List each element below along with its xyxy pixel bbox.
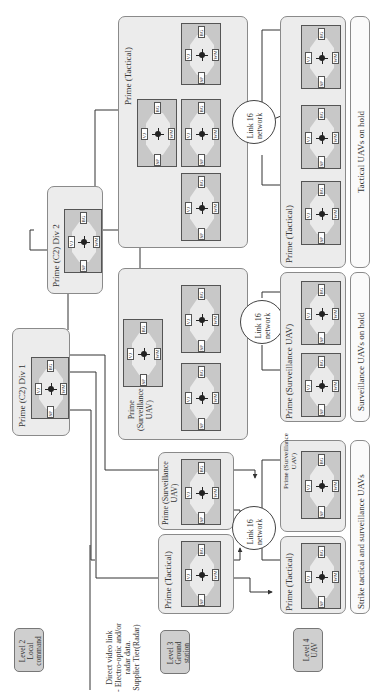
level-3-box: Level 3 Ground station — [160, 630, 190, 674]
link16-network-strike: Link 16network — [232, 506, 276, 550]
level-4-box: Level 4 UAV — [293, 628, 323, 672]
annotation-line-1: Direct video link — [105, 623, 114, 692]
node-hub-icon — [319, 311, 325, 317]
node-hub-icon — [155, 131, 161, 137]
node-hub-icon — [319, 55, 325, 61]
node-hub-icon — [319, 135, 325, 141]
annotation-line-3: radar data. — [123, 623, 132, 692]
hold-strike: Strike tactical and surveillance UAVs — [350, 440, 370, 614]
group-label: Prime (C2) Div 2 — [51, 224, 61, 287]
node: BG VJ WM SP — [64, 209, 102, 273]
node-hub-icon — [48, 386, 54, 392]
group-l3-tactical: Prime (Tactical) BGVJWMSP — [158, 534, 234, 614]
annotation-line-2: - Electro-optic and/or — [114, 623, 123, 692]
node: BG VJ WM SP — [31, 357, 69, 419]
node-hub-icon — [319, 574, 325, 580]
node-hub-icon — [141, 351, 147, 357]
group-l4-surveillance-strike: Prime (Surveillance UAV) BGVJWMSP — [280, 440, 346, 532]
annotation-line-4: Supplier Tier(Radar) — [132, 623, 141, 692]
level-2-line-3: command — [35, 633, 43, 669]
node-hub-icon — [199, 52, 205, 58]
level-2-box: Level 2 Local command — [14, 628, 44, 672]
group-c2-div2: Prime (C2) Div 2 BG VJ WM SP — [47, 186, 103, 294]
level-4-line-2: UAV — [311, 633, 319, 667]
hold-surveillance: Surveillance UAVs on hold — [350, 272, 370, 422]
group-l4-surveillance-hold: Prime (Surveillance UAV) BGVJWMSP BGVJWM… — [280, 272, 346, 422]
link16-network-surveillance: Link 16network — [240, 300, 284, 344]
group-c2-div1: Prime (C2) Div 1 BG VJ WM SP — [12, 328, 70, 436]
node-hub-icon — [81, 239, 87, 245]
node-hub-icon — [199, 395, 205, 401]
group-surveillance-mid: Prime (Surveillance UAV) BGVJWMSP BGVJWM… — [118, 268, 248, 440]
node-hub-icon — [199, 572, 205, 578]
node-hub-icon — [199, 490, 205, 496]
group-label: Prime (Tactical) — [123, 47, 133, 105]
group-label: Prime (C2) Div 1 — [17, 364, 27, 427]
node-sp: SP — [47, 406, 54, 418]
node-vj: VJ — [35, 383, 42, 395]
node-wm: WM — [60, 383, 67, 395]
video-link-annotation: Direct video link - Electro-optic and/or… — [105, 623, 141, 692]
level-3-line-3: station — [183, 635, 191, 671]
node-hub-icon — [199, 131, 205, 137]
node-hub-icon — [199, 317, 205, 323]
node-hub-icon — [319, 383, 325, 389]
group-label: Prime (Surveillance UAV) — [127, 388, 154, 431]
link16-network-tactical: Link 16network — [232, 100, 276, 144]
node-hub-icon — [319, 483, 325, 489]
group-l3-surveillance: Prime (Surveillance UAV) BGVJWMSP — [158, 452, 234, 530]
group-l4-tactical-strike: Prime (Tactical) BGVJWMSP — [280, 536, 346, 614]
group-tactical-top: Prime (Tactical) BGVJWMSP BGVJWMSP BGVJW… — [118, 16, 248, 248]
node-hub-icon — [319, 211, 325, 217]
hold-tactical: Tactical UAVs on hold — [350, 16, 370, 268]
node-hub-icon — [199, 205, 205, 211]
group-l4-tactical-hold: Prime (Tactical) BGVJWMSP BGVJWMSP BGVJW… — [280, 16, 346, 268]
node-bg: BG — [47, 360, 54, 372]
